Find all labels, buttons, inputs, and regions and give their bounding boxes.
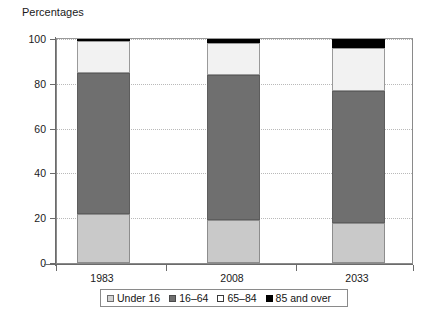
bar-segment-1983-65-84 (77, 41, 130, 72)
bar-segment-2033-85-and-over (332, 39, 385, 48)
bar-1983 (77, 39, 130, 263)
bar-segment-2008-16-64 (207, 75, 260, 221)
bar-segment-2033-65-84 (332, 48, 385, 91)
bar-segment-2008-under-16 (207, 220, 260, 263)
legend-label-16-64: 16–64 (179, 293, 208, 304)
legend-swatch-icon-16-64 (169, 295, 176, 302)
legend-item-under-16[interactable]: Under 16 (107, 293, 160, 304)
y-tick-60 (50, 129, 55, 130)
bar-segment-2008-65-84 (207, 43, 260, 74)
y-tick-label-40: 40 (12, 168, 46, 179)
legend-item-16-64[interactable]: 16–64 (169, 293, 208, 304)
y-tick-40 (50, 173, 55, 174)
stacked-bar-chart: Percentages 100806040200 198320082033 Un… (0, 0, 436, 321)
bar-segment-1983-85-and-over (77, 39, 130, 41)
x-tick-label-2008: 2008 (197, 272, 267, 284)
legend-swatch-icon-85-and-over (266, 295, 273, 302)
legend-label-under-16: Under 16 (117, 293, 160, 304)
chart-axis-title: Percentages (22, 6, 84, 18)
bar-segment-1983-16-64 (77, 73, 130, 214)
y-tick-label-80: 80 (12, 79, 46, 90)
y-tick-100 (50, 39, 55, 40)
x-tick-0 (56, 265, 57, 271)
bar-segment-2008-85-and-over (207, 39, 260, 43)
x-axis-line (44, 264, 413, 265)
legend-item-85-and-over[interactable]: 85 and over (266, 293, 331, 304)
plot-area (56, 38, 413, 264)
bar-segment-2033-under-16 (332, 223, 385, 263)
y-tick-label-0: 0 (12, 258, 46, 269)
legend-label-85-and-over: 85 and over (276, 293, 331, 304)
y-axis-line (55, 37, 56, 266)
y-tick-label-20: 20 (12, 213, 46, 224)
y-tick-label-100: 100 (12, 34, 46, 45)
x-tick-3 (413, 265, 414, 271)
legend-swatch-icon-65-84 (217, 295, 224, 302)
bar-2008 (207, 39, 260, 263)
x-tick-2 (296, 265, 297, 271)
y-tick-label-60: 60 (12, 124, 46, 135)
legend-item-65-84[interactable]: 65–84 (217, 293, 256, 304)
legend-label-65-84: 65–84 (227, 293, 256, 304)
plot-inner (57, 39, 412, 263)
legend-swatch-icon-under-16 (107, 295, 114, 302)
bar-2033 (332, 39, 385, 263)
bar-segment-1983-under-16 (77, 214, 130, 263)
chart-legend: Under 16 16–64 65–84 85 and over (100, 289, 348, 307)
x-tick-label-1983: 1983 (67, 272, 137, 284)
x-tick-label-2033: 2033 (322, 272, 392, 284)
y-tick-20 (50, 218, 55, 219)
bar-segment-2033-16-64 (332, 91, 385, 223)
y-tick-80 (50, 84, 55, 85)
x-tick-1 (166, 265, 167, 271)
